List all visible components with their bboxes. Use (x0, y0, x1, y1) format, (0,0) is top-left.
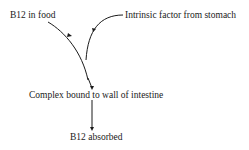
node-b12-absorbed: B12 absorbed (70, 132, 123, 143)
diagram-arrows (0, 0, 249, 150)
node-complex-bound: Complex bound to wall of intestine (29, 90, 163, 101)
arrow-b12-to-complex (48, 22, 88, 80)
arrowhead-absorbed (90, 127, 94, 131)
node-b12-in-food: B12 in food (10, 10, 55, 21)
node-intrinsic-factor: Intrinsic factor from stomach (125, 10, 236, 21)
arrow-intrinsic-to-complex (86, 15, 123, 60)
arrowhead-mid-b12 (67, 33, 72, 37)
